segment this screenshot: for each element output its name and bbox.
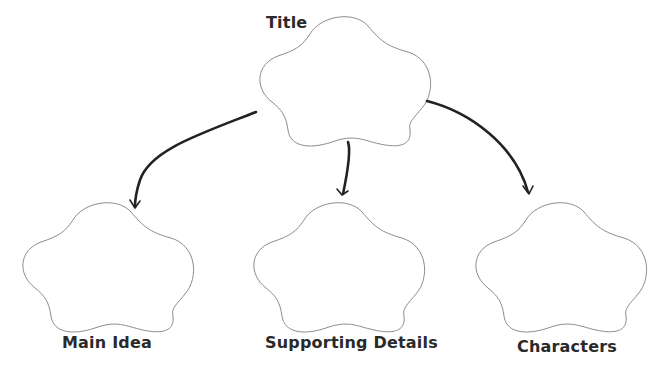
- main-idea-node-shape: [23, 203, 194, 332]
- graphic-organizer-diagram: [0, 0, 659, 367]
- title-node-shape: [260, 17, 431, 146]
- characters-node-shape: [476, 203, 647, 332]
- supporting-details-label: Supporting Details: [265, 333, 438, 352]
- characters-label: Characters: [517, 337, 617, 356]
- arrow-title-to-supporting-details: [337, 142, 349, 195]
- supporting-details-node-shape: [254, 203, 425, 332]
- arrow-title-to-main-idea: [130, 112, 256, 208]
- main-idea-label: Main Idea: [62, 333, 152, 352]
- title-label: Title: [266, 13, 307, 32]
- arrow-title-to-characters: [427, 101, 533, 194]
